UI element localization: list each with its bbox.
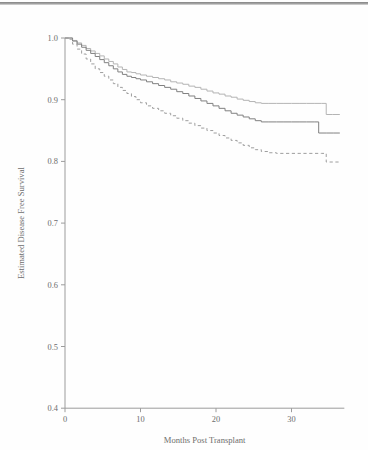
survival-curve-lower-curve	[65, 38, 340, 162]
survival-curves	[65, 38, 340, 162]
x-tick-label: 20	[212, 415, 220, 424]
y-axis-title: Estimated Disease Free Survival	[16, 167, 26, 280]
y-tick-label: 0.8	[48, 157, 58, 166]
y-tick-label: 0.7	[48, 219, 58, 228]
y-tick-label: 0.9	[48, 96, 58, 105]
y-tick-label: 0.6	[48, 281, 58, 290]
x-tick-label: 30	[287, 415, 295, 424]
y-tick-label: 0.5	[48, 343, 58, 352]
x-tick-label: 10	[136, 415, 144, 424]
y-axis-ticks: 0.40.50.60.70.80.91.0	[48, 34, 65, 413]
x-tick-label: 0	[63, 415, 67, 424]
axes	[65, 38, 344, 408]
survival-curve-upper-curve	[65, 38, 340, 115]
x-axis-title: Months Post Transplant	[164, 435, 246, 445]
survival-curve-middle-curve	[65, 38, 340, 133]
km-survival-figure: 0.40.50.60.70.80.91.0 0102030 Months Pos…	[0, 0, 368, 450]
x-axis-ticks: 0102030	[63, 408, 296, 424]
plot-canvas: 0.40.50.60.70.80.91.0 0102030 Months Pos…	[0, 0, 368, 450]
y-tick-label: 1.0	[48, 34, 58, 43]
y-tick-label: 0.4	[48, 404, 59, 413]
